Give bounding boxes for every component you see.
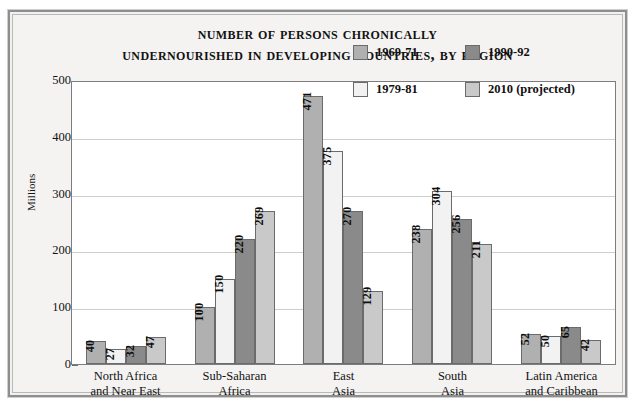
bar-value-label: 65	[559, 326, 571, 339]
bar-groups: 4027324710015022026947137527012923830425…	[72, 82, 615, 364]
x-category-line: Sub-Saharan	[180, 369, 289, 384]
bar: 129	[363, 291, 383, 364]
y-tick-label: 400	[31, 130, 71, 145]
bar-group: 40273247	[72, 82, 181, 364]
chart-figure: Number of Persons Chronically Undernouri…	[8, 10, 627, 397]
x-category-line: Asia	[398, 384, 507, 399]
bar: 32	[126, 346, 146, 364]
bar-value-label: 27	[104, 347, 116, 360]
bar-value-label: 129	[361, 286, 373, 305]
legend-swatch	[465, 82, 480, 97]
bar: 471	[303, 96, 323, 364]
bar-value-label: 375	[321, 147, 333, 166]
x-category-line: Asia	[289, 384, 398, 399]
legend-item: 1969-71	[353, 45, 461, 60]
bar-value-label: 50	[539, 334, 551, 347]
x-category-line: South	[398, 369, 507, 384]
legend-item: 2010 (projected)	[465, 82, 603, 97]
x-axis-labels: North Africaand Near EastSub-SaharanAfri…	[71, 369, 616, 399]
x-category-line: Africa	[180, 384, 289, 399]
bar-value-label: 211	[470, 240, 482, 258]
bar-value-label: 32	[124, 345, 136, 358]
y-tick-label: 0	[31, 357, 71, 372]
x-category-line: East	[289, 369, 398, 384]
x-category-label: Latin Americaand Caribbean	[507, 369, 616, 399]
bar: 50	[541, 336, 561, 364]
chart-figure-inner: Number of Persons Chronically Undernouri…	[12, 14, 623, 393]
chart-title-line-1: Number of Persons Chronically	[13, 23, 622, 44]
bar-value-label: 304	[430, 187, 442, 206]
bar-value-label: 238	[410, 224, 422, 243]
bar-group: 52506542	[506, 82, 615, 364]
x-category-line: and Near East	[71, 384, 180, 399]
bar-value-label: 150	[213, 274, 225, 293]
x-category-line: North Africa	[71, 369, 180, 384]
bar: 238	[412, 229, 432, 364]
legend-label: 1990-92	[488, 45, 530, 60]
bar-value-label: 220	[233, 235, 245, 254]
legend-swatch	[465, 45, 480, 60]
bar-value-label: 471	[301, 92, 313, 111]
legend-label: 1979-81	[376, 82, 418, 97]
y-tick-label: 100	[31, 300, 71, 315]
plot-area: 4027324710015022026947137527012923830425…	[71, 81, 616, 365]
bar: 150	[215, 279, 235, 364]
bar: 211	[472, 244, 492, 364]
bar-value-label: 52	[519, 333, 531, 346]
bar-value-label: 270	[341, 206, 353, 225]
bar: 220	[235, 239, 255, 364]
y-tick-label: 300	[31, 187, 71, 202]
bar-value-label: 42	[579, 339, 591, 352]
x-category-label: Sub-SaharanAfrica	[180, 369, 289, 399]
y-axis-ticks: 0100200300400500	[27, 15, 71, 392]
y-tick-label: 500	[31, 73, 71, 88]
legend-label: 1969-71	[376, 45, 418, 60]
legend-swatch	[353, 82, 368, 97]
legend: 1969-711990-921979-812010 (projected)	[353, 45, 603, 97]
bar: 100	[195, 307, 215, 364]
x-category-line: and Caribbean	[507, 384, 616, 399]
legend-item: 1979-81	[353, 82, 461, 97]
legend-item: 1990-92	[465, 45, 603, 60]
x-category-label: EastAsia	[289, 369, 398, 399]
bar-value-label: 47	[144, 336, 156, 349]
legend-label: 2010 (projected)	[488, 82, 575, 97]
x-category-label: North Africaand Near East	[71, 369, 180, 399]
bar-value-label: 100	[193, 303, 205, 322]
y-tick-mark	[72, 365, 78, 366]
bar-value-label: 40	[84, 340, 96, 353]
bar-group: 471375270129	[289, 82, 398, 364]
bar-value-label: 269	[253, 207, 265, 226]
bar: 42	[581, 340, 601, 364]
bar-value-label: 256	[450, 214, 462, 233]
legend-swatch	[353, 45, 368, 60]
x-category-label: SouthAsia	[398, 369, 507, 399]
bar-group: 238304256211	[398, 82, 507, 364]
bar: 47	[146, 337, 166, 364]
bar-group: 100150220269	[181, 82, 290, 364]
bar: 269	[255, 211, 275, 364]
x-category-line: Latin America	[507, 369, 616, 384]
bar: 375	[323, 151, 343, 364]
y-tick-label: 200	[31, 243, 71, 258]
